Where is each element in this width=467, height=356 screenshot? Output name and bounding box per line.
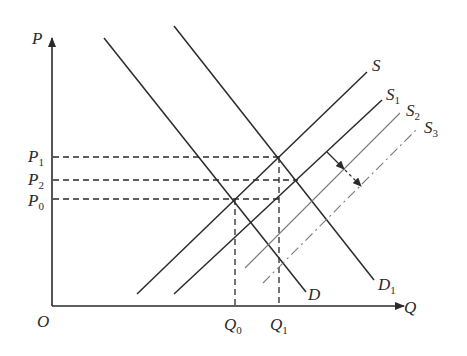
x-axis-label: Q xyxy=(404,298,416,317)
s1-label: S1 xyxy=(386,85,400,106)
demand-curve-d1 xyxy=(174,26,374,280)
supply-curve-s2 xyxy=(245,113,400,268)
p0-label: P0 xyxy=(27,191,44,212)
s-label: S xyxy=(372,56,381,75)
s3-label: S3 xyxy=(424,118,439,139)
demand-curve-d xyxy=(104,38,306,292)
q0-label: Q0 xyxy=(224,315,242,336)
p2-label: P2 xyxy=(27,170,44,191)
p1-label: P1 xyxy=(27,147,44,168)
supply-demand-diagram: P Q O P1 P2 P0 Q0 Q1 D D1 S S1 S2 S3 xyxy=(0,0,467,356)
origin-label: O xyxy=(37,312,49,331)
d1-label: D1 xyxy=(377,275,396,296)
supply-curve-s1 xyxy=(174,100,382,294)
d-label: D xyxy=(307,285,321,304)
shift-arrow-segment-2 xyxy=(345,170,361,186)
s2-label: S2 xyxy=(406,101,420,122)
supply-curve-s3 xyxy=(263,128,418,283)
q1-label: Q1 xyxy=(270,315,288,336)
shift-arrow-segment-1 xyxy=(327,152,344,169)
price-guides xyxy=(53,157,298,306)
y-axis-label: P xyxy=(31,29,42,48)
